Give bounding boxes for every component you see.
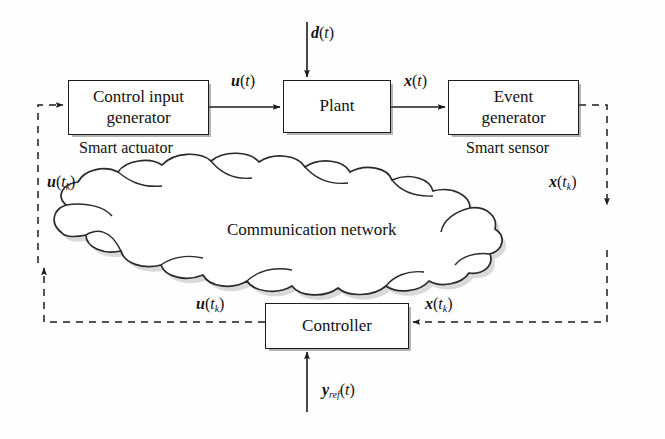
signal-var: x [404, 72, 412, 89]
signal-var: x [549, 173, 557, 190]
signal-label-x-tk-bottom: x(tk) [425, 295, 453, 314]
signal-label-x-tk-top: x(tk) [549, 173, 577, 192]
signal-label-u-tk-bottom: u(tk) [196, 295, 224, 314]
signal-label-y-ref-t: yref(t) [322, 381, 355, 400]
block-event-generator[interactable]: Eventgenerator [448, 80, 579, 135]
signal-var: u [196, 295, 205, 312]
block-control-input-generator[interactable]: Control inputgenerator [68, 80, 209, 135]
signal-arg-close: ) [250, 72, 255, 89]
block-plant[interactable]: Plant [283, 80, 391, 133]
block-control-input-generator-label: Control inputgenerator [89, 87, 188, 127]
block-controller[interactable]: Controller [265, 303, 409, 349]
dashed-x-tk-to-cloud [579, 105, 607, 205]
signal-label-x-t: x(t) [404, 72, 427, 90]
signal-label-u-t: u(t) [231, 72, 255, 90]
signal-label-d-t: d(t) [311, 24, 334, 42]
cloud-label: Communication network [227, 220, 397, 240]
signal-subscript: ref [329, 389, 340, 400]
block-controller-label: Controller [298, 316, 376, 336]
caption-smart-actuator: Smart actuator [79, 139, 173, 157]
block-event-generator-label: Eventgenerator [477, 87, 549, 127]
signal-var: d [311, 24, 319, 41]
block-plant-label: Plant [316, 96, 359, 116]
signal-var: u [47, 173, 56, 190]
block-diagram: Control inputgenerator Plant Eventgenera… [0, 0, 665, 439]
signal-var: u [231, 72, 240, 89]
signal-var: x [425, 295, 433, 312]
caption-smart-sensor: Smart sensor [466, 139, 549, 157]
signal-label-u-tk-top: u(tk) [47, 173, 75, 192]
